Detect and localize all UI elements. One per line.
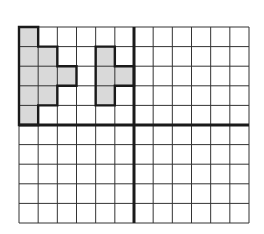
shape-left [19, 27, 77, 125]
grid-diagram [0, 0, 264, 234]
